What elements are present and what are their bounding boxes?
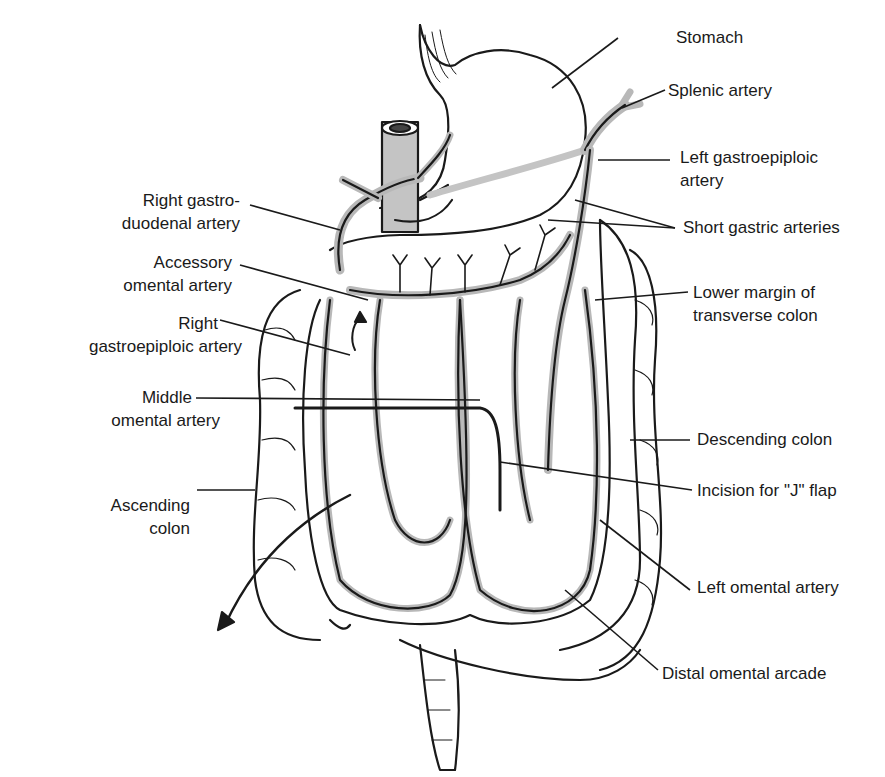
label-middle-omental-1: Middle: [142, 387, 192, 408]
label-left-omental-artery: Left omental artery: [697, 577, 839, 598]
label-right-gastroepiploic-2: gastroepiploic artery: [89, 336, 242, 357]
label-right-gastroepiploic-1: Right: [178, 313, 218, 334]
label-ascending-colon-1: Ascending: [111, 495, 190, 516]
splenic-artery-drawing: [585, 92, 640, 150]
label-lower-margin-2: transverse colon: [693, 305, 818, 326]
leader-lines: [196, 38, 692, 670]
omentum-outline: [303, 220, 640, 650]
up-arrow: [352, 312, 366, 350]
label-descending-colon: Descending colon: [697, 429, 832, 450]
label-left-gastroepiploic-2: artery: [680, 170, 723, 191]
label-ascending-colon-2: colon: [149, 518, 190, 539]
label-accessory-omental-2: omental artery: [123, 275, 232, 296]
label-right-gastroduodenal-1: Right gastro-: [143, 190, 240, 211]
stomach-drawing: [330, 25, 586, 250]
label-right-gastroduodenal-2: duodenal artery: [122, 213, 240, 234]
label-incision-j-flap: Incision for "J" flap: [697, 480, 837, 501]
label-stomach: Stomach: [676, 27, 743, 48]
label-left-gastroepiploic-1: Left gastroepiploic: [680, 147, 818, 168]
lower-colon-drawing: [400, 640, 640, 770]
label-middle-omental-2: omental artery: [111, 410, 220, 431]
anatomy-illustration: [0, 0, 885, 777]
label-distal-omental-arcade: Distal omental arcade: [662, 663, 826, 684]
label-accessory-omental-1: Accessory: [154, 252, 232, 273]
label-short-gastric-arteries: Short gastric arteries: [683, 217, 840, 238]
label-lower-margin-1: Lower margin of: [693, 282, 815, 303]
division-band: [430, 150, 585, 195]
label-splenic-artery: Splenic artery: [668, 80, 772, 101]
